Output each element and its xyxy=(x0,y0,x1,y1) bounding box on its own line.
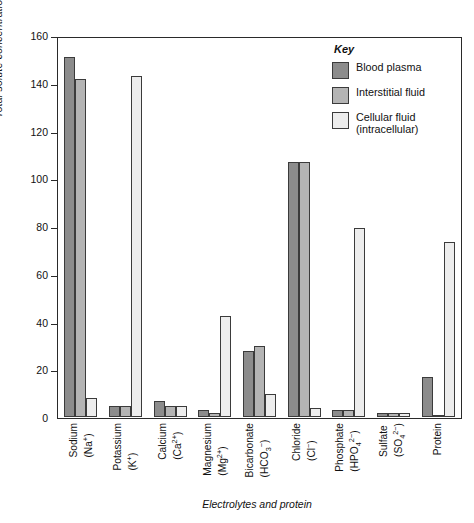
bar-group xyxy=(58,38,103,417)
legend-swatch xyxy=(332,112,349,129)
bar xyxy=(120,406,131,418)
x-axis-label-text: Magnesium(Mg2+) xyxy=(202,423,228,476)
bar-group xyxy=(148,38,193,417)
bar xyxy=(254,346,265,417)
bar-group xyxy=(192,38,237,417)
bar xyxy=(399,413,410,418)
bar xyxy=(265,394,276,418)
legend-label: Blood plasma xyxy=(356,62,421,74)
bar xyxy=(422,377,433,417)
bar xyxy=(154,401,165,418)
legend-label: Cellular fluid(intracellular) xyxy=(356,112,418,136)
legend-swatch xyxy=(332,62,349,79)
legend-swatch xyxy=(332,87,349,104)
x-axis-label-text: Phosphate(HPO42−) xyxy=(334,423,364,472)
bar xyxy=(388,413,399,418)
bar xyxy=(64,57,75,417)
bar xyxy=(131,76,142,417)
y-tick-label: 80 xyxy=(36,221,48,233)
x-axis-title: Electrolytes and protein xyxy=(0,498,474,510)
chart-legend: Key Blood plasmaInterstitial fluidCellul… xyxy=(332,43,458,144)
legend-item: Blood plasma xyxy=(332,62,458,79)
bar xyxy=(176,406,187,418)
bar xyxy=(243,351,254,417)
y-tick-label: 140 xyxy=(30,78,48,90)
bar xyxy=(377,413,388,418)
bar xyxy=(165,406,176,418)
bar-group xyxy=(103,38,148,417)
bar-group xyxy=(282,38,327,417)
legend-item: Cellular fluid(intracellular) xyxy=(332,112,458,136)
x-axis-label-text: Calcium(Ca2+) xyxy=(157,423,183,460)
bar-group xyxy=(237,38,282,417)
bar xyxy=(198,410,209,417)
x-axis-label-text: Bicarbonate(HCO3−) xyxy=(244,423,274,477)
bar xyxy=(209,413,220,418)
bar xyxy=(343,410,354,417)
y-tick-label: 60 xyxy=(36,269,48,281)
y-tick-label: 160 xyxy=(30,30,48,42)
x-axis-label-text: Protein xyxy=(432,423,444,455)
chart-container: Total solute concentration (m Eq/L of H2… xyxy=(0,0,474,523)
y-tick-label: 100 xyxy=(30,173,48,185)
bar xyxy=(109,406,120,418)
legend-label: Interstitial fluid xyxy=(356,87,425,99)
x-axis-label-text: Sulfate(SO42−) xyxy=(378,423,408,457)
bar xyxy=(86,398,97,417)
y-axis-title: Total solute concentration (m Eq/L of H2… xyxy=(0,0,7,118)
bar xyxy=(354,228,365,418)
bar xyxy=(332,410,343,417)
x-axis-label-text: Potassium(K+) xyxy=(112,423,138,471)
legend-item: Interstitial fluid xyxy=(332,87,458,104)
y-tick-label: 0 xyxy=(42,412,48,424)
x-axis-label-text: Chloride(Cl−) xyxy=(291,423,317,461)
bar xyxy=(444,242,455,417)
bar xyxy=(220,316,231,418)
y-tick-label: 40 xyxy=(36,317,48,329)
bar xyxy=(299,162,310,418)
bar xyxy=(433,415,444,417)
y-tick-label: 120 xyxy=(30,126,48,138)
bar xyxy=(310,408,321,417)
legend-title: Key xyxy=(334,43,458,55)
bar xyxy=(288,162,299,418)
y-tick-label: 20 xyxy=(36,364,48,376)
bar xyxy=(75,79,86,418)
x-axis-label-text: Sodium(Na+) xyxy=(68,423,94,458)
